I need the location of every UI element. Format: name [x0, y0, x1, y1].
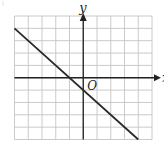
x-axis-arrow-icon — [154, 74, 161, 81]
coordinate-plane-figure: x y O — [0, 0, 164, 143]
x-axis-label: x — [162, 70, 164, 85]
graph-line — [15, 28, 139, 139]
corner-mark — [2, 1, 3, 6]
y-axis-label: y — [78, 0, 87, 15]
origin-label: O — [87, 79, 97, 93]
axes — [15, 13, 162, 140]
